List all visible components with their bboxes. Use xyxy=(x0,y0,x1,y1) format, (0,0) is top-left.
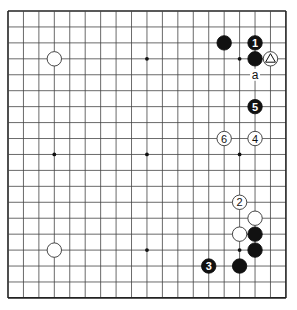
white-stone-move-2: 2 xyxy=(232,195,246,209)
black-stone xyxy=(232,259,246,273)
black-stone-icon xyxy=(217,36,231,50)
white-stone-icon xyxy=(47,243,61,257)
star-point xyxy=(238,153,242,157)
move-number-label: 2 xyxy=(237,196,243,208)
move-number-label: 1 xyxy=(252,37,258,49)
black-stone-move-5: 5 xyxy=(248,99,262,113)
black-stone xyxy=(248,227,262,241)
star-point xyxy=(145,248,149,252)
star-point xyxy=(238,248,242,252)
white-stone-move-6: 6 xyxy=(217,131,231,145)
star-point xyxy=(145,57,149,61)
move-number-label: 4 xyxy=(252,133,258,145)
point-labels-layer: a xyxy=(250,68,260,82)
black-stone xyxy=(248,243,262,257)
move-number-label: 3 xyxy=(206,260,212,272)
black-stone-icon xyxy=(232,259,246,273)
white-stone-icon xyxy=(47,52,61,66)
black-stone-icon xyxy=(248,243,262,257)
black-stone xyxy=(248,52,262,66)
white-stone-icon xyxy=(232,227,246,241)
black-stone-icon xyxy=(248,227,262,241)
star-point xyxy=(145,153,149,157)
white-stone xyxy=(232,227,246,241)
point-label-a: a xyxy=(252,68,259,82)
star-point xyxy=(52,153,56,157)
white-stone-icon xyxy=(248,211,262,225)
white-stone-triangle-marked xyxy=(263,52,277,66)
move-number-label: 6 xyxy=(221,133,227,145)
star-point xyxy=(238,57,242,61)
white-stone-move-4: 4 xyxy=(248,131,262,145)
go-board: 156423 a xyxy=(0,0,297,310)
black-stone-icon xyxy=(248,52,262,66)
black-stone xyxy=(217,36,231,50)
white-stone xyxy=(248,211,262,225)
black-stone-move-1: 1 xyxy=(248,36,262,50)
white-stone-top-left-star xyxy=(47,52,61,66)
white-stone-bottom-left-star xyxy=(47,243,61,257)
black-stone-move-3: 3 xyxy=(202,259,216,273)
move-number-label: 5 xyxy=(252,101,258,113)
